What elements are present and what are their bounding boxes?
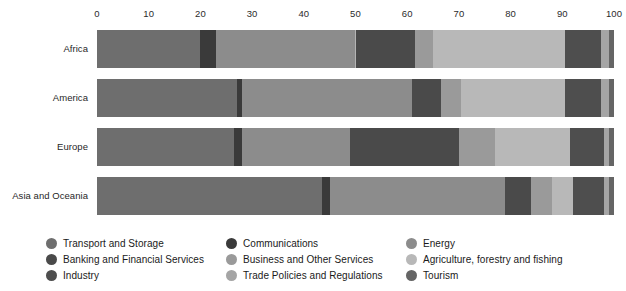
- legend-label: Energy: [423, 238, 455, 250]
- legend-label: Communications: [243, 238, 318, 250]
- bar-segment: [531, 177, 552, 215]
- legend-label: Business and Other Services: [243, 254, 373, 266]
- x-axis-tick-labels: 0102030405060708090100: [97, 8, 614, 24]
- x-tick-70: 70: [454, 8, 465, 19]
- bar-segment: [601, 79, 609, 117]
- x-tick-60: 60: [402, 8, 413, 19]
- legend-swatch-icon: [46, 270, 57, 281]
- legend-swatch-icon: [406, 238, 417, 249]
- bar-segment: [350, 128, 459, 166]
- bar-segment: [565, 30, 601, 68]
- legend-swatch-icon: [46, 238, 57, 249]
- legend-item[interactable]: Communications: [226, 236, 408, 251]
- legend-label: Banking and Financial Services: [63, 254, 204, 266]
- bar-segment: [573, 177, 604, 215]
- bar-segment: [97, 30, 200, 68]
- legend-item[interactable]: Business and Other Services: [226, 252, 408, 267]
- legend-swatch-icon: [46, 254, 57, 265]
- x-tick-20: 20: [195, 8, 206, 19]
- legend-swatch-icon: [226, 238, 237, 249]
- x-tick-0: 0: [94, 8, 99, 19]
- bar-segment: [505, 177, 531, 215]
- legend-item[interactable]: Industry: [46, 268, 228, 283]
- bar-segment: [234, 128, 242, 166]
- bar-segment: [356, 30, 415, 68]
- bar-row: Africa: [0, 30, 626, 68]
- category-label-europe: Europe: [0, 128, 88, 166]
- legend-label: Agriculture, forestry and fishing: [423, 254, 563, 266]
- legend-item[interactable]: Agriculture, forestry and fishing: [406, 252, 621, 267]
- x-tick-40: 40: [298, 8, 309, 19]
- bar-segment: [565, 79, 601, 117]
- bar-rows: AfricaAmericaEuropeAsia and Oceania: [0, 26, 626, 226]
- bar-segment: [415, 30, 433, 68]
- bar-segment: [433, 30, 565, 68]
- bar-segment: [570, 128, 604, 166]
- legend-swatch-icon: [406, 270, 417, 281]
- bar-segment: [97, 128, 234, 166]
- bar-segment: [200, 30, 216, 68]
- legend-item[interactable]: Energy: [406, 236, 621, 251]
- bar-row: Asia and Oceania: [0, 177, 626, 215]
- bar-segment: [412, 79, 440, 117]
- legend-label: Transport and Storage: [63, 238, 164, 250]
- x-tick-100: 100: [606, 8, 622, 19]
- x-tick-10: 10: [143, 8, 154, 19]
- legend-column: CommunicationsBusiness and Other Service…: [226, 236, 408, 284]
- bar-segment: [601, 30, 609, 68]
- legend-label: Tourism: [423, 270, 458, 282]
- bar-segment: [459, 128, 495, 166]
- category-label-america: America: [0, 79, 88, 117]
- category-label-asia-and-oceania: Asia and Oceania: [0, 177, 88, 215]
- bar-row: Europe: [0, 128, 626, 166]
- x-tick-80: 80: [505, 8, 516, 19]
- x-tick-90: 90: [557, 8, 568, 19]
- bar-segment: [242, 79, 413, 117]
- legend-swatch-icon: [406, 254, 417, 265]
- bar-segment: [495, 128, 570, 166]
- legend-item[interactable]: Trade Policies and Regulations: [226, 268, 408, 283]
- bar-segment: [609, 128, 614, 166]
- x-tick-50: 50: [350, 8, 361, 19]
- bar-segment: [242, 128, 351, 166]
- stacked-bar: [97, 30, 614, 68]
- legend-item[interactable]: Banking and Financial Services: [46, 252, 228, 267]
- bar-segment: [322, 177, 330, 215]
- legend-label: Industry: [63, 270, 99, 282]
- bar-segment: [609, 79, 614, 117]
- chart-legend: Transport and StorageBanking and Financi…: [0, 236, 626, 291]
- legend-column: EnergyAgriculture, forestry and fishingT…: [406, 236, 621, 284]
- legend-swatch-icon: [226, 254, 237, 265]
- stacked-bar: [97, 79, 614, 117]
- bar-segment: [461, 79, 564, 117]
- stacked-bar: [97, 177, 614, 215]
- bar-segment: [97, 79, 237, 117]
- legend-swatch-icon: [226, 270, 237, 281]
- bar-segment: [609, 30, 614, 68]
- category-label-africa: Africa: [0, 30, 88, 68]
- legend-label: Trade Policies and Regulations: [243, 270, 383, 282]
- x-tick-30: 30: [247, 8, 258, 19]
- plot-area: 0102030405060708090100 AfricaAmericaEuro…: [0, 0, 626, 232]
- stacked-bar: [97, 128, 614, 166]
- legend-column: Transport and StorageBanking and Financi…: [46, 236, 228, 284]
- bar-row: America: [0, 79, 626, 117]
- bar-segment: [441, 79, 462, 117]
- bar-segment: [609, 177, 614, 215]
- bar-segment: [97, 177, 322, 215]
- legend-item[interactable]: Tourism: [406, 268, 621, 283]
- bar-segment: [330, 177, 506, 215]
- bar-segment: [216, 30, 356, 68]
- bar-segment: [552, 177, 573, 215]
- legend-item[interactable]: Transport and Storage: [46, 236, 228, 251]
- stacked-bar-chart: 0102030405060708090100 AfricaAmericaEuro…: [0, 0, 626, 291]
